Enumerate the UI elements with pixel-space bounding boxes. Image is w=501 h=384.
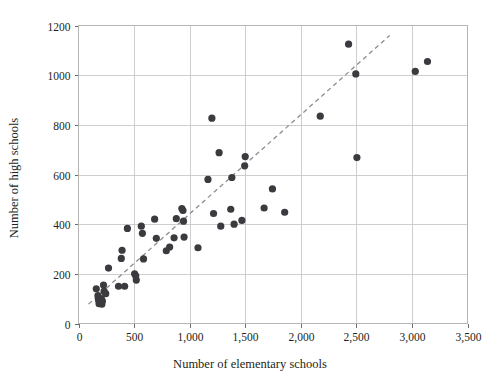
data-point xyxy=(139,230,146,237)
scatter-plot-figure: 05001,0001,5002,0002,5003,0003,500 02004… xyxy=(0,0,501,384)
data-point xyxy=(105,265,112,272)
data-point xyxy=(204,176,211,183)
data-point xyxy=(140,255,147,262)
data-point xyxy=(151,216,158,223)
y-tick-label: 400 xyxy=(53,219,71,231)
data-point xyxy=(217,223,224,230)
data-point xyxy=(228,174,235,181)
data-point xyxy=(173,215,180,222)
data-point xyxy=(215,149,222,156)
x-tick-label: 500 xyxy=(126,331,144,343)
x-tick-label: 0 xyxy=(77,331,83,343)
data-point xyxy=(166,243,173,250)
y-tick-label: 200 xyxy=(53,269,71,281)
data-point xyxy=(412,68,419,75)
data-point xyxy=(352,70,359,77)
data-point xyxy=(353,154,360,161)
data-point xyxy=(124,225,131,232)
data-point xyxy=(153,235,160,242)
data-point xyxy=(179,207,186,214)
y-tick-label: 1000 xyxy=(48,70,71,82)
data-point xyxy=(281,209,288,216)
data-point xyxy=(261,204,268,211)
x-tick-label: 1,500 xyxy=(233,331,259,344)
data-point xyxy=(242,153,249,160)
y-tick-label: 800 xyxy=(53,120,71,132)
data-point xyxy=(99,298,106,305)
data-point xyxy=(133,276,140,283)
data-point xyxy=(170,234,177,241)
data-point xyxy=(210,210,217,217)
data-point xyxy=(118,255,125,262)
y-tick-label: 600 xyxy=(53,170,71,182)
data-point xyxy=(180,233,187,240)
data-point xyxy=(317,113,324,120)
x-tick-label: 1,000 xyxy=(178,331,204,344)
data-point xyxy=(227,206,234,213)
data-point xyxy=(93,285,100,292)
data-point xyxy=(121,283,128,290)
data-point xyxy=(102,290,109,297)
x-axis-title: Number of elementary schools xyxy=(173,357,327,371)
data-point xyxy=(345,41,352,48)
y-axis-title: Number of high schools xyxy=(7,118,21,239)
data-point xyxy=(138,223,145,230)
y-tick-label: 0 xyxy=(65,319,71,331)
data-point xyxy=(241,162,248,169)
x-tick-label: 3,500 xyxy=(456,331,482,344)
data-point xyxy=(180,218,187,225)
data-point xyxy=(424,58,431,65)
data-point xyxy=(100,281,107,288)
data-point xyxy=(208,115,215,122)
y-tick-label: 1200 xyxy=(48,21,71,33)
x-tick-label: 3,000 xyxy=(400,331,426,344)
figure-background xyxy=(0,0,501,384)
data-point xyxy=(194,244,201,251)
x-tick-label: 2,500 xyxy=(344,331,370,344)
x-tick-label: 2,000 xyxy=(289,331,315,344)
data-point xyxy=(238,217,245,224)
data-point xyxy=(269,185,276,192)
data-point xyxy=(118,247,125,254)
data-point xyxy=(231,221,238,228)
